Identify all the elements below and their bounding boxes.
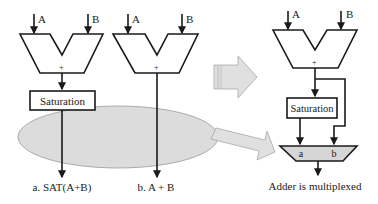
input-b-label: B bbox=[92, 13, 99, 25]
saturation-label: Saturation bbox=[290, 103, 334, 114]
multiplexer-shape bbox=[280, 146, 357, 161]
adder-plus-symbol: + bbox=[59, 63, 64, 72]
input-b-label: B bbox=[186, 13, 193, 25]
caption-a: a. SAT(A+B) bbox=[33, 181, 92, 194]
transform-arrow-right-icon bbox=[214, 56, 257, 98]
caption-multiplexed: Adder is multiplexed bbox=[269, 180, 362, 192]
adder-plus-symbol: + bbox=[154, 63, 159, 72]
mux-input-b-label: b bbox=[332, 148, 337, 159]
input-a-label: A bbox=[292, 8, 300, 20]
input-b-label: B bbox=[346, 8, 353, 20]
right-circuit: A B + Saturation a b Adder is multiplexe… bbox=[269, 8, 362, 192]
saturation-label: Saturation bbox=[40, 95, 86, 107]
caption-b: b. A + B bbox=[138, 181, 175, 193]
diagram-canvas: A B + Saturation a. SAT(A+B) A B + b. A … bbox=[0, 0, 378, 204]
input-a-label: A bbox=[38, 13, 46, 25]
transform-arrow-diagonal-icon bbox=[211, 128, 275, 160]
mux-input-a-label: a bbox=[299, 148, 304, 159]
input-a-label: A bbox=[132, 13, 140, 25]
adder-plus-symbol: + bbox=[312, 58, 317, 67]
shared-region-ellipse bbox=[18, 106, 218, 168]
